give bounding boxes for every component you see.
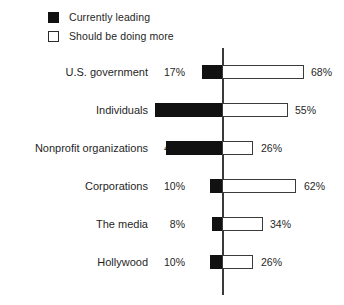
bar-should-be-doing-more [222,141,253,155]
legend-label-currently-leading: Currently leading [69,12,150,23]
bar-currently-leading [210,179,222,193]
legend-swatch-filled-icon [48,12,59,23]
bar-should-be-doing-more [222,217,263,231]
bar-should-be-doing-more [222,103,288,117]
value-label-right: 26% [261,141,282,155]
category-label: Individuals [96,103,148,117]
category-label: U.S. government [65,65,148,79]
category-label: Nonprofit organizations [35,141,148,155]
category-label: Hollywood [97,255,148,269]
chart-row: The media 8% 34% [0,213,344,235]
chart-row: Corporations 10% 62% [0,175,344,197]
bar-currently-leading [210,255,222,269]
chart-row: Hollywood 10% 26% [0,251,344,273]
value-label-left: 10% [164,179,185,193]
value-label-right: 62% [304,179,325,193]
value-label-left: 10% [164,255,185,269]
legend-swatch-hollow-icon [48,31,59,42]
chart-row: U.S. government 17% 68% [0,61,344,83]
chart-row: Nonprofit organizations 47% 26% [0,137,344,159]
bar-currently-leading [155,103,222,117]
bar-should-be-doing-more [222,65,304,79]
value-label-right: 26% [261,255,282,269]
value-label-left: 17% [164,65,185,79]
diverging-bar-chart: Currently leading Should be doing more U… [0,0,344,305]
bar-currently-leading [166,141,222,155]
legend-item-should-be-doing-more: Should be doing more [48,27,174,46]
category-label: Corporations [85,179,148,193]
value-label-left: 8% [170,217,185,231]
value-label-right: 34% [270,217,291,231]
value-label-right: 55% [295,103,316,117]
bar-should-be-doing-more [222,179,296,193]
bar-currently-leading [212,217,222,231]
legend-item-currently-leading: Currently leading [48,8,174,27]
bar-currently-leading [202,65,222,79]
chart-legend: Currently leading Should be doing more [48,8,174,46]
category-label: The media [96,217,148,231]
legend-label-should-be-doing-more: Should be doing more [69,31,174,42]
chart-row: Individuals 56% 55% [0,99,344,121]
bar-should-be-doing-more [222,255,253,269]
value-label-right: 68% [311,65,332,79]
